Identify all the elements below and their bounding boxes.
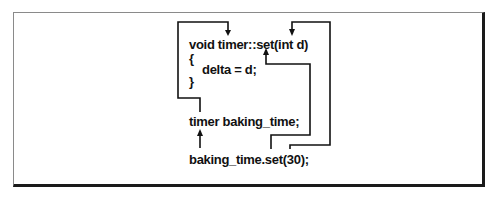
code-call: baking_time.set(30); bbox=[189, 153, 309, 166]
code-declaration: timer baking_time; bbox=[189, 115, 299, 128]
code-open-brace: { bbox=[189, 52, 194, 65]
arrowhead-parameter-icon bbox=[289, 29, 295, 36]
code-body: delta = d; bbox=[202, 63, 256, 76]
arrowhead-declaration-icon bbox=[197, 129, 203, 136]
code-signature: void timer::set(int d) bbox=[189, 38, 308, 51]
arrow-method-to-set bbox=[266, 54, 310, 149]
arrowhead-class-icon bbox=[225, 30, 231, 36]
arrows-layer bbox=[0, 0, 502, 200]
code-close-brace: } bbox=[189, 75, 194, 88]
